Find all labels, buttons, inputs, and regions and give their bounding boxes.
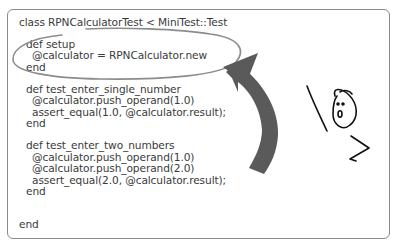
code-line: end <box>26 117 46 129</box>
code-line: end <box>26 61 46 73</box>
code-line: assert_equal(2.0, @calculator.result); <box>32 174 226 186</box>
code-line: assert_equal(1.0, @calculator.result); <box>32 106 226 118</box>
code-line: @calculator = RPNCalculator.new <box>32 49 207 61</box>
code-line-class-decl: class RPNCalculatorTest < MiniTest::Test <box>19 16 227 28</box>
code-line: @calculator.push_operand(2.0) <box>32 162 194 174</box>
code-listing: class RPNCalculatorTest < MiniTest::Test… <box>0 0 397 244</box>
code-line: @calculator.push_operand(1.0) <box>32 94 194 106</box>
code-line-class-end: end <box>19 218 39 230</box>
code-line: end <box>26 185 46 197</box>
code-line: def test_enter_two_numbers <box>26 139 174 151</box>
